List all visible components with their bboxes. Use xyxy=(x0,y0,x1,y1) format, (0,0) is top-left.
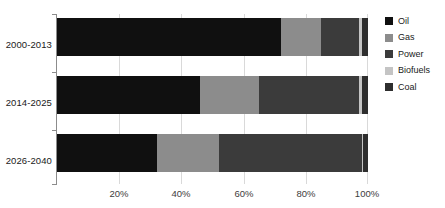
y-axis-line xyxy=(56,14,57,184)
legend-item-coal[interactable]: Coal xyxy=(385,79,445,96)
segment-oil[interactable] xyxy=(57,134,157,172)
x-tick-label-40: 40% xyxy=(171,188,190,199)
legend-swatch-icon xyxy=(385,83,393,91)
y-axis-tick xyxy=(52,72,57,73)
bar-track xyxy=(57,18,368,56)
segment-power[interactable] xyxy=(259,76,359,114)
legend-item-gas[interactable]: Gas xyxy=(385,30,445,47)
legend-label: Oil xyxy=(398,17,409,26)
legend-swatch-icon xyxy=(385,67,393,75)
segment-oil[interactable] xyxy=(57,18,281,56)
segment-gas[interactable] xyxy=(200,76,259,114)
bar-row-2026-2040[interactable] xyxy=(57,134,368,172)
legend-swatch-icon xyxy=(385,50,393,58)
category-label-2026-2040: 2026-2040 xyxy=(6,155,52,166)
stacked-bar-chart: 2000-2013 2014-2025 2026-2040 20% 40% 60… xyxy=(0,0,445,208)
legend-label: Gas xyxy=(398,33,415,42)
legend-item-power[interactable]: Power xyxy=(385,46,445,63)
y-axis-tick xyxy=(52,14,57,15)
bar-row-2000-2013[interactable] xyxy=(57,18,368,56)
legend-label: Coal xyxy=(398,83,417,92)
segment-coal[interactable] xyxy=(362,18,368,56)
x-tick-label-60: 60% xyxy=(234,188,253,199)
legend-label: Biofuels xyxy=(398,66,430,75)
y-axis-tick xyxy=(52,184,57,185)
segment-gas[interactable] xyxy=(157,134,219,172)
legend-swatch-icon xyxy=(385,34,393,42)
category-label-2000-2013: 2000-2013 xyxy=(6,39,52,50)
bar-track xyxy=(57,76,368,114)
x-tick-label-20: 20% xyxy=(109,188,128,199)
bar-row-2014-2025[interactable] xyxy=(57,76,368,114)
legend-swatch-icon xyxy=(385,17,393,25)
legend-label: Power xyxy=(398,50,424,59)
y-axis-tick xyxy=(52,130,57,131)
segment-gas[interactable] xyxy=(281,18,321,56)
segment-oil[interactable] xyxy=(57,76,200,114)
legend: Oil Gas Power Biofuels Coal xyxy=(385,13,445,96)
segment-coal[interactable] xyxy=(363,134,368,172)
x-tick-label-100: 100% xyxy=(355,188,379,199)
category-label-2014-2025: 2014-2025 xyxy=(6,97,52,108)
plot-area xyxy=(57,14,368,184)
x-tick-label-80: 80% xyxy=(296,188,315,199)
legend-item-biofuels[interactable]: Biofuels xyxy=(385,63,445,80)
segment-coal[interactable] xyxy=(362,76,368,114)
bar-track xyxy=(57,134,368,172)
segment-power[interactable] xyxy=(219,134,362,172)
segment-power[interactable] xyxy=(321,18,358,56)
legend-item-oil[interactable]: Oil xyxy=(385,13,445,30)
